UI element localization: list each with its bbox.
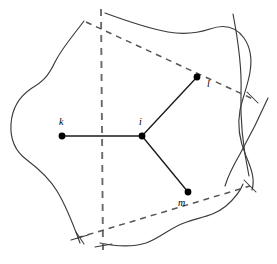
dashed-lines-group bbox=[77, 9, 253, 250]
graph-labels-group: k i l m bbox=[59, 78, 210, 208]
tick-marks-group bbox=[71, 92, 258, 247]
node-dot-m[interactable] bbox=[185, 189, 192, 196]
tick-lower-left-cross bbox=[71, 235, 88, 240]
region-outline-segment-top-right bbox=[105, 13, 253, 190]
region-outline-group bbox=[11, 13, 253, 246]
region-outline-segment-bottom bbox=[100, 184, 243, 246]
figure-container: k i l m bbox=[0, 0, 277, 264]
edge-i-l bbox=[142, 77, 197, 136]
tick-right-lower bbox=[244, 180, 256, 192]
node-label-l: l bbox=[207, 78, 210, 89]
graph-edges-group bbox=[62, 77, 197, 192]
node-dot-k[interactable] bbox=[59, 133, 66, 140]
extra-curves-group bbox=[225, 14, 268, 186]
edge-i-m bbox=[142, 136, 188, 192]
node-dot-i[interactable] bbox=[139, 133, 146, 140]
node-label-m: m bbox=[178, 197, 185, 208]
bisector-vertical-line bbox=[101, 9, 103, 250]
node-label-i: i bbox=[139, 116, 142, 127]
bisector-i-l-line bbox=[86, 22, 253, 99]
node-dot-l[interactable] bbox=[194, 74, 201, 81]
graph-nodes-group bbox=[59, 74, 201, 196]
node-label-k: k bbox=[59, 116, 64, 127]
diagram-canvas: k i l m bbox=[0, 0, 277, 264]
region-outline-segment-left bbox=[11, 21, 84, 243]
right-boundary-curve-lower bbox=[225, 98, 268, 186]
